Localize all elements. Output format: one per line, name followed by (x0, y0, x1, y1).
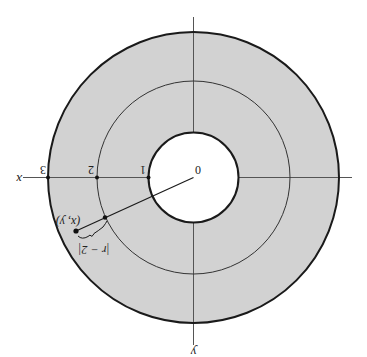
tick-label-3: 3 (40, 163, 46, 177)
tick-label-0: 0 (195, 163, 201, 177)
x-axis-label: x (16, 172, 23, 187)
y-axis-label: y (190, 345, 198, 357)
tick-label-2: 2 (88, 163, 94, 177)
intersection-dot (103, 215, 107, 219)
annulus-diagram: x y 3 2 1 0 (x, y) |r − 2| (0, 0, 367, 357)
point-label: (x, y) (56, 215, 81, 229)
tick-dot-2 (95, 176, 99, 180)
tick-dot-1 (147, 176, 151, 180)
tick-label-1: 1 (140, 163, 146, 177)
distance-label: |r − 2| (78, 243, 109, 257)
